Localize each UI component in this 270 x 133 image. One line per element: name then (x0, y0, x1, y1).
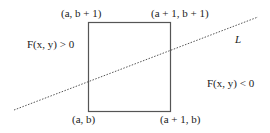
unit-square (89, 23, 171, 112)
line-L (14, 17, 258, 110)
diagram-canvas: (a, b + 1) (a + 1, b + 1) (a, b) (a + 1,… (0, 0, 270, 133)
region-label-negative: F(x, y) < 0 (207, 77, 255, 90)
region-label-positive: F(x, y) > 0 (27, 38, 75, 51)
corner-label-bottom-left: (a, b) (72, 113, 96, 126)
corner-label-top-right: (a + 1, b + 1) (151, 7, 209, 20)
corner-label-top-left: (a, b + 1) (61, 7, 102, 20)
corner-label-bottom-right: (a + 1, b) (160, 113, 201, 126)
line-label: L (234, 33, 241, 45)
